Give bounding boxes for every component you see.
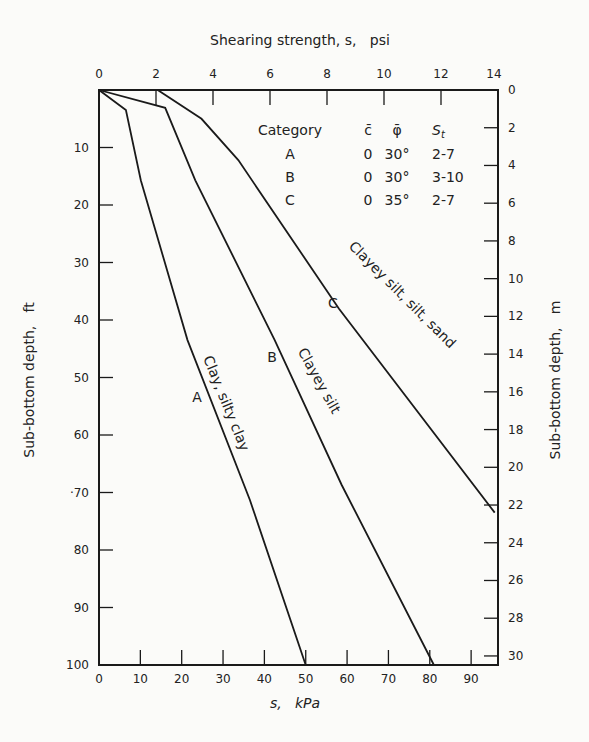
- right-tick-label: 12: [508, 309, 523, 323]
- shear-strength-depth-chart: 0246810121401020304050607080901020304050…: [0, 0, 589, 742]
- curve-b-letter: B: [267, 349, 277, 365]
- bottom-tick-label: 90: [463, 672, 478, 686]
- left-tick-label: 40: [74, 313, 89, 327]
- left-axis-title: Sub-bottom depth, ft: [21, 302, 37, 458]
- right-tick-label: 18: [508, 423, 523, 437]
- right-tick-label: 6: [508, 196, 516, 210]
- legend-header-phi: φ̄: [392, 122, 401, 138]
- curve-c-letter: C: [328, 295, 338, 311]
- legend-st-value: 3-10: [432, 169, 464, 185]
- bottom-tick-label: 60: [339, 672, 354, 686]
- top-tick-label: 8: [323, 67, 331, 81]
- legend-c-value: 0: [364, 169, 373, 185]
- left-tick-label: 50: [74, 371, 89, 385]
- legend-c-value: 0: [364, 146, 373, 162]
- bottom-tick-label: 10: [133, 672, 148, 686]
- right-tick-label: 24: [508, 536, 523, 550]
- bottom-tick-label: 40: [257, 672, 272, 686]
- left-tick-label: 9̇0: [74, 601, 89, 615]
- legend-header-category: Category: [258, 122, 322, 138]
- right-tick-label: 20: [508, 460, 523, 474]
- bottom-tick-label: 30: [215, 672, 230, 686]
- curve-labels: ABCClay, silty clayClayey siltClayey sil…: [192, 238, 459, 453]
- top-axis-title: Shearing strength, s, psi: [210, 32, 390, 48]
- curve-c-description: Clayey silt, silt, sand: [346, 238, 459, 351]
- left-tick-label: ·70: [70, 486, 89, 500]
- top-tick-label: 6: [266, 67, 274, 81]
- bottom-tick-label: 80: [422, 672, 437, 686]
- right-tick-label: 26: [508, 573, 523, 587]
- curve-a: [99, 90, 306, 665]
- right-tick-label: 16: [508, 385, 523, 399]
- left-tick-label: 10: [74, 141, 89, 155]
- top-tick-label: 4: [209, 67, 217, 81]
- bottom-tick-label: 0: [95, 672, 103, 686]
- legend-table: Categoryc̄φ̄StA030°2-7B030°3-10C035°2-7: [258, 122, 464, 208]
- legend-category: A: [285, 146, 295, 162]
- top-tick-label: 10: [376, 67, 391, 81]
- left-tick-label: 20: [74, 198, 89, 212]
- right-tick-label: 10: [508, 272, 523, 286]
- right-tick-label: 0: [508, 83, 516, 97]
- right-tick-label: 8: [508, 234, 516, 248]
- legend-phi-value: 30°: [385, 169, 410, 185]
- top-tick-label: 0: [95, 67, 103, 81]
- bottom-tick-label: 20: [174, 672, 189, 686]
- left-tick-label: 60: [74, 428, 89, 442]
- top-tick-label: 2: [152, 67, 160, 81]
- top-tick-label: 14: [486, 67, 501, 81]
- legend-header-c: c̄: [364, 122, 372, 138]
- top-tick-label: 12: [433, 67, 448, 81]
- left-tick-label: 30: [74, 256, 89, 270]
- bottom-axis-title: s, kPa: [270, 695, 320, 711]
- right-tick-label: 28: [508, 611, 523, 625]
- right-tick-label: 4: [508, 158, 516, 172]
- legend-st-value: 2-7: [432, 146, 455, 162]
- legend-phi-value: 35°: [385, 192, 410, 208]
- right-tick-label: 30: [508, 649, 523, 663]
- curve-b-description: Clayey silt: [295, 345, 344, 417]
- legend-category: C: [285, 192, 295, 208]
- legend-st-value: 2-7: [432, 192, 455, 208]
- curve-a-letter: A: [192, 389, 202, 405]
- right-tick-label: 2: [508, 121, 516, 135]
- legend-c-value: 0: [364, 192, 373, 208]
- bottom-tick-label: 50: [298, 672, 313, 686]
- left-tick-label: 80: [74, 543, 89, 557]
- right-tick-label: 22: [508, 498, 523, 512]
- bottom-tick-label: 70: [381, 672, 396, 686]
- right-tick-label: 14: [508, 347, 523, 361]
- legend-category: B: [285, 169, 295, 185]
- right-axis-title: Sub-bottom depth, m: [547, 301, 563, 460]
- left-tick-label: 100: [66, 658, 89, 672]
- legend-phi-value: 30°: [385, 146, 410, 162]
- legend-header-st: St: [432, 122, 446, 140]
